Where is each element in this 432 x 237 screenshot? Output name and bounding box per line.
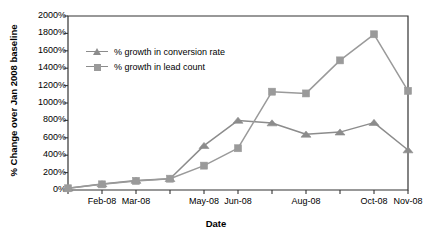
data-point-marker xyxy=(99,181,106,188)
data-point-marker xyxy=(269,88,276,95)
data-point-marker xyxy=(235,145,242,152)
x-axis-title: Date xyxy=(0,218,432,229)
x-axis-tick-label: Jun-08 xyxy=(224,196,252,206)
x-axis-tick-label: Mar-08 xyxy=(122,196,151,206)
chart-legend: % growth in conversion rate % growth in … xyxy=(86,44,225,74)
data-point-marker xyxy=(303,90,310,97)
chart-container: % Change over Jan 2008 baseline 2000%180… xyxy=(0,0,432,237)
data-point-marker xyxy=(133,177,140,184)
legend-item-conversion-rate: % growth in conversion rate xyxy=(86,44,225,59)
data-point-marker xyxy=(369,119,379,125)
x-axis-tick-label: Nov-08 xyxy=(393,196,422,206)
data-point-marker xyxy=(337,57,344,64)
legend-item-lead-count: % growth in lead count xyxy=(86,59,225,74)
x-axis-tick-label: May-08 xyxy=(189,196,219,206)
legend-swatch-triangle-icon xyxy=(86,47,108,57)
data-point-marker xyxy=(167,175,174,182)
data-point-marker xyxy=(65,185,72,192)
data-point-marker xyxy=(371,31,378,38)
x-axis-tick-label: Feb-08 xyxy=(88,196,117,206)
legend-label-conversion-rate: % growth in conversion rate xyxy=(114,47,225,57)
plot-border xyxy=(68,16,408,190)
x-axis-tick-label: Aug-08 xyxy=(291,196,320,206)
data-point-marker xyxy=(201,162,208,169)
x-axis-tick-label: Oct-08 xyxy=(360,196,387,206)
legend-swatch-square-icon xyxy=(86,62,108,72)
legend-label-lead-count: % growth in lead count xyxy=(114,62,205,72)
data-point-marker xyxy=(405,87,412,94)
series-line-1 xyxy=(68,120,408,188)
